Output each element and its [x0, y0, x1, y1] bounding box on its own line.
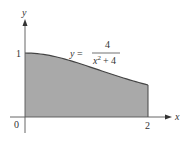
equation-lhs: y = [69, 48, 83, 59]
equation-denominator: x2+ 4 [92, 54, 116, 66]
equation-numerator: 4 [105, 39, 110, 50]
y-tick-1: 1 [16, 48, 21, 59]
equation-label: y = 4 x2+ 4 [69, 39, 120, 66]
x-axis-arrow-icon [165, 115, 172, 120]
y-axis-arrow-icon [23, 19, 28, 26]
x-tick-0: 0 [14, 119, 19, 130]
y-axis-label: y [21, 7, 27, 18]
x-axis-label: x [174, 111, 180, 122]
area-diagram: y x 0 2 1 y = 4 x2+ 4 [0, 0, 187, 141]
shaded-area [25, 53, 148, 117]
x-tick-2: 2 [145, 120, 150, 131]
